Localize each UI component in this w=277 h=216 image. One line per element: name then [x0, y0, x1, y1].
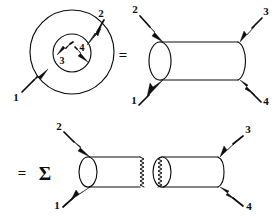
annulus-inner-leg-3-label: 3	[60, 55, 65, 66]
cylinder-top-leg-2	[140, 16, 163, 42]
cut-left-leg-1-label: 1	[54, 199, 60, 211]
cut-right-leg-3	[220, 136, 243, 157]
cylinder-top-leg-4	[240, 80, 261, 102]
diagram-cylinder-whole: 2 1 3 4	[131, 3, 269, 107]
diagram-cylinder-cut-right: 3 4	[153, 123, 252, 212]
annulus-leg-2-label: 2	[98, 7, 104, 19]
annulus-inner-leg-3	[57, 42, 73, 55]
cut-right-leg-4-label: 4	[246, 200, 252, 212]
figure-root: 2 1 3 4 =	[0, 0, 277, 216]
cut-right-leg-4	[220, 187, 243, 206]
cylinder-top-leg-4-line	[252, 93, 261, 102]
sum-symbol: Σ	[39, 163, 51, 184]
cut-right-leg-3-label: 3	[245, 123, 251, 135]
cylinder-top-leg-1-label: 1	[131, 94, 137, 106]
worldsheet-factorization-figure: 2 1 3 4 =	[0, 0, 277, 216]
cut-left-leg-2-arrowhead	[72, 140, 90, 157]
cylinder-top-leg-3-line	[252, 18, 262, 28]
annulus-inner-leg-4-label: 4	[80, 42, 85, 53]
annulus-leg-1-label: 1	[13, 91, 19, 103]
cylinder-top-leg-2-arrowhead	[148, 25, 163, 42]
cylinder-top-leg-3-label: 3	[263, 5, 269, 17]
cylinder-top-left-face	[149, 42, 171, 80]
cylinder-top-leg-3	[240, 18, 262, 42]
annulus-inner-leg-3-line	[70, 42, 73, 44]
annulus-inner-leg-4-line	[75, 47, 77, 49]
cut-left-leg-1-arrowhead	[71, 187, 90, 200]
cut-right-leg-3-line	[233, 136, 243, 144]
equals-sign-bottom: =	[18, 165, 27, 181]
cylinder-top-leg-4-arrowhead	[240, 80, 255, 95]
equals-sign-top: =	[119, 47, 128, 63]
cut-right-leg-3-arrowhead	[220, 142, 236, 157]
annulus-outer-circle	[30, 10, 114, 94]
cylinder-top-leg-1-arrowhead	[147, 80, 163, 97]
diagram-annulus: 2 1 3 4	[13, 7, 114, 103]
diagram-cylinder-cut-left: 2 1	[54, 120, 144, 211]
cut-left-face	[79, 157, 97, 187]
cylinder-top-right-rim	[238, 42, 246, 80]
cut-right-leg-4-arrowhead	[220, 187, 236, 200]
cut-left-leg-2	[64, 132, 90, 157]
cylinder-top-leg-3-arrowhead	[240, 26, 255, 42]
annulus-leg-2	[87, 20, 104, 45]
annulus-inner-leg-3-arrowhead	[57, 43, 71, 55]
cut-right-rim	[218, 157, 224, 187]
cylinder-top-leg-2-label: 2	[132, 3, 138, 15]
annulus-leg-2-barb	[87, 27, 101, 45]
cylinder-top-leg-1	[139, 80, 163, 105]
cut-left-torn-edge	[140, 157, 144, 187]
cut-left-leg-2-label: 2	[56, 120, 62, 132]
cut-left-leg-1	[63, 187, 90, 207]
cylinder-top-leg-4-label: 4	[263, 95, 269, 107]
annulus-leg-1-arrowhead	[31, 69, 48, 83]
